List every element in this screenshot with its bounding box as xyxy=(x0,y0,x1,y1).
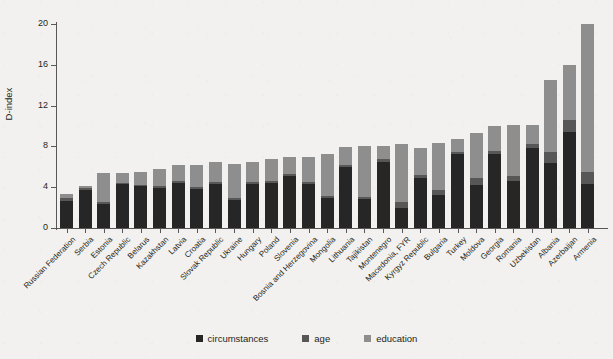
legend-swatch-age xyxy=(302,335,309,342)
legend-label-education: education xyxy=(376,333,417,344)
legend-label-age: age xyxy=(314,333,330,344)
chart-legend: circumstancesageeducation xyxy=(0,333,613,344)
chart-container: 048121620 D-index Russian FederationSerb… xyxy=(0,0,613,359)
legend-item-age[interactable]: age xyxy=(302,333,330,344)
legend-label-circumstances: circumstances xyxy=(208,333,269,344)
x-axis-label: Russian Federation xyxy=(21,235,76,290)
legend-swatch-circumstances xyxy=(196,335,203,342)
legend-swatch-education xyxy=(364,335,371,342)
legend-item-education[interactable]: education xyxy=(364,333,417,344)
legend-item-circumstances[interactable]: circumstances xyxy=(196,333,269,344)
x-axis-labels: Russian FederationSerbiaEstoniaCzech Rep… xyxy=(0,0,613,359)
